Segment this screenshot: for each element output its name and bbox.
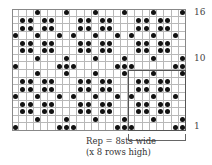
row-number-1: 1 bbox=[194, 122, 200, 131]
repeat-width-label: Rep = 8sts wide bbox=[86, 136, 156, 147]
repeat-height-label: (x 8 rows high) bbox=[86, 147, 156, 158]
repeat-box bbox=[128, 70, 186, 131]
knitting-chart-grid bbox=[12, 9, 186, 131]
row-number-10: 10 bbox=[194, 54, 205, 63]
row-number-16: 16 bbox=[194, 8, 205, 17]
repeat-legend: Rep = 8sts wide (x 8 rows high) bbox=[86, 136, 156, 158]
